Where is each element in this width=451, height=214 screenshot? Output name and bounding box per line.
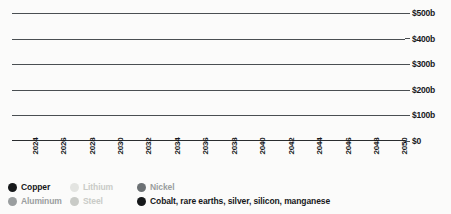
legend-swatch-icon — [70, 197, 79, 206]
x-tick — [97, 144, 106, 178]
legend-item[interactable]: Copper — [8, 182, 68, 192]
x-tick-text: 2028 — [88, 138, 97, 155]
x-tick: 2044 — [311, 144, 320, 178]
y-tick-mark — [405, 90, 410, 91]
legend-item[interactable]: Nickel — [137, 182, 348, 192]
x-tick — [325, 144, 334, 178]
x-tick-text: 2048 — [372, 138, 381, 155]
y-tick-text: $500b — [412, 8, 435, 18]
x-tick — [240, 144, 249, 178]
x-tick — [126, 144, 135, 178]
x-tick-text: 2046 — [344, 138, 353, 155]
x-tick — [268, 144, 277, 178]
x-tick-text: 2040 — [258, 138, 267, 155]
chart-legend: CopperLithiumNickelAluminumSteelCobalt, … — [8, 180, 348, 208]
plot-area: $0$100b$200b$300b$400b$500b — [12, 13, 405, 141]
y-tick-text: $0 — [412, 136, 421, 146]
legend-swatch-icon — [137, 183, 146, 192]
x-tick — [296, 144, 305, 178]
x-tick: 2024 — [26, 144, 35, 178]
legend-swatch-icon — [8, 183, 17, 192]
y-axis-label: $200b — [405, 85, 435, 95]
legend-item[interactable]: Cobalt, rare earths, silver, silicon, ma… — [137, 196, 348, 206]
x-tick: 2026 — [55, 144, 64, 178]
x-tick: 2038 — [225, 144, 234, 178]
y-axis-label: $500b — [405, 8, 435, 18]
x-tick: 2046 — [339, 144, 348, 178]
y-tick-text: $400b — [412, 34, 435, 44]
x-tick: 2032 — [140, 144, 149, 178]
x-tick-text: 2034 — [173, 138, 182, 155]
y-tick-mark — [405, 13, 410, 14]
x-tick: 2040 — [254, 144, 263, 178]
x-tick — [69, 144, 78, 178]
x-tick-text: 2032 — [144, 138, 153, 155]
x-tick — [154, 144, 163, 178]
x-tick — [353, 144, 362, 178]
y-tick-mark — [405, 64, 410, 65]
legend-label: Lithium — [83, 182, 113, 192]
x-tick: 2042 — [282, 144, 291, 178]
y-tick-mark — [405, 38, 410, 39]
x-tick — [382, 144, 391, 178]
legend-label: Nickel — [150, 182, 174, 192]
legend-label: Steel — [83, 196, 103, 206]
x-tick-text: 2042 — [287, 138, 296, 155]
x-tick: 2030 — [112, 144, 121, 178]
x-tick: 2028 — [83, 144, 92, 178]
legend-item[interactable]: Steel — [70, 196, 135, 206]
x-tick-text: 2036 — [201, 138, 210, 155]
legend-swatch-icon — [137, 197, 146, 206]
y-axis-label: $100b — [405, 110, 435, 120]
legend-label: Cobalt, rare earths, silver, silicon, ma… — [150, 196, 330, 206]
legend-item[interactable]: Lithium — [70, 182, 135, 192]
y-tick-text: $100b — [412, 110, 435, 120]
x-tick-text: 2038 — [230, 138, 239, 155]
legend-label: Copper — [21, 182, 50, 192]
x-tick — [211, 144, 220, 178]
y-axis-label: $400b — [405, 34, 435, 44]
x-tick — [183, 144, 192, 178]
y-axis-label: $300b — [405, 59, 435, 69]
legend-swatch-icon — [8, 197, 17, 206]
x-tick-text: 2044 — [315, 138, 324, 155]
x-tick: 2048 — [367, 144, 376, 178]
x-tick: 2050 — [396, 144, 405, 178]
x-tick-text: 2030 — [116, 138, 125, 155]
x-tick-text: 2024 — [31, 138, 40, 155]
x-tick: 2034 — [168, 144, 177, 178]
legend-swatch-icon — [70, 183, 79, 192]
x-tick — [12, 144, 21, 178]
x-tick-text: 2050 — [400, 138, 409, 155]
x-axis-tick-labels: 2024202620282030203220342036203820402042… — [12, 144, 405, 178]
legend-label: Aluminum — [21, 196, 62, 206]
y-tick-text: $200b — [412, 85, 435, 95]
stacked-bar-chart: $0$100b$200b$300b$400b$500b 202420262028… — [0, 0, 451, 214]
y-tick-text: $300b — [412, 59, 435, 69]
y-tick-mark — [405, 115, 410, 116]
x-tick-text: 2026 — [59, 138, 68, 155]
x-tick — [40, 144, 49, 178]
legend-item[interactable]: Aluminum — [8, 196, 68, 206]
y-axis-tick-labels: $0$100b$200b$300b$400b$500b — [12, 13, 405, 141]
x-tick: 2036 — [197, 144, 206, 178]
